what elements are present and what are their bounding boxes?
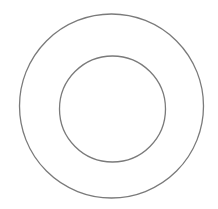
- diagram-canvas: [0, 0, 218, 209]
- outer-circle: [20, 14, 204, 198]
- inner-circle: [60, 56, 166, 162]
- concentric-circles-diagram: [0, 0, 218, 209]
